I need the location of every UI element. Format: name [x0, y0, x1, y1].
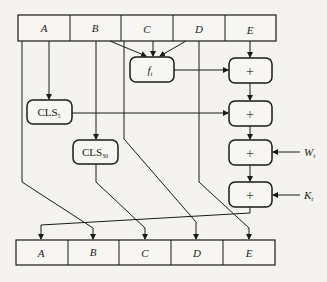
- kt-subscript: t: [311, 195, 314, 203]
- input-wt: Wt: [273, 146, 316, 160]
- top-cell-b: B: [92, 22, 99, 34]
- cls30-subscript: 30: [102, 153, 108, 159]
- plus-icon: +: [246, 188, 254, 203]
- top-cell-c: C: [143, 23, 151, 35]
- plus-icon: +: [246, 64, 254, 79]
- svg-text:CLS5: CLS5: [37, 106, 60, 119]
- cls30-label: CLS: [82, 146, 102, 158]
- svg-text:Wt: Wt: [304, 146, 316, 160]
- shift-box-cls30: CLS30: [73, 140, 118, 164]
- plus-icon: +: [246, 146, 254, 161]
- function-box-ft: ft: [130, 57, 174, 82]
- cls5-label: CLS: [37, 106, 57, 118]
- svg-text:Kt: Kt: [303, 189, 314, 203]
- cls5-subscript: 5: [58, 113, 61, 119]
- wt-subscript: t: [313, 152, 316, 160]
- sha1-step-diagram: A B C D E A B C D E ft CLS5 CLS30 + +: [0, 0, 327, 282]
- bottom-cell-e: E: [245, 247, 253, 259]
- adder-4: +: [229, 182, 272, 207]
- bottom-cell-a: A: [37, 247, 45, 259]
- top-cell-d: D: [194, 23, 203, 35]
- bottom-cell-c: C: [141, 247, 149, 259]
- adder-1: +: [229, 58, 272, 83]
- top-register: A B C D E: [18, 15, 276, 41]
- plus-icon: +: [246, 107, 254, 122]
- top-cell-e: E: [246, 24, 254, 36]
- adder-3: +: [229, 140, 272, 165]
- bottom-cell-d: D: [192, 247, 201, 259]
- bottom-cell-b: B: [90, 246, 97, 258]
- adder-2: +: [229, 101, 272, 126]
- shift-box-cls5: CLS5: [27, 100, 72, 124]
- bottom-register: A B C D E: [16, 240, 275, 265]
- input-kt: Kt: [273, 189, 314, 203]
- top-cell-a: A: [40, 22, 48, 34]
